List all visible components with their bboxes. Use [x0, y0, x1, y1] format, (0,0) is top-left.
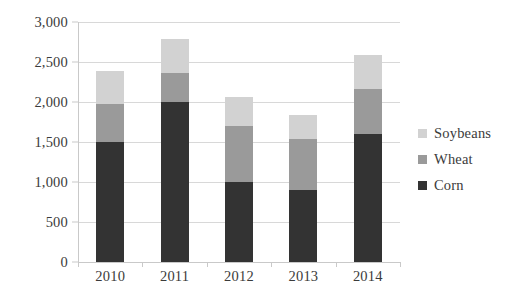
- bar-segment-corn[interactable]: [96, 142, 124, 262]
- x-tick-mark: [400, 262, 401, 267]
- x-tick-label: 2011: [160, 268, 189, 285]
- legend-swatch-icon: [418, 129, 427, 138]
- bar-stack[interactable]: [96, 22, 124, 262]
- bar-segment-soybeans[interactable]: [225, 97, 253, 126]
- x-tick-label: 2012: [224, 268, 254, 285]
- y-tick-label: 1,000: [0, 174, 68, 191]
- y-tick-label: 0: [0, 254, 68, 271]
- bar-segment-wheat[interactable]: [161, 73, 189, 102]
- x-tick-mark: [336, 262, 337, 267]
- y-tick-label: 1,500: [0, 134, 68, 151]
- plot-area: [78, 22, 400, 262]
- chart-legend: SoybeansWheatCorn: [418, 120, 491, 198]
- bar-stack[interactable]: [354, 22, 382, 262]
- legend-label: Corn: [434, 177, 464, 194]
- stacked-bar-chart: 05001,0001,5002,0002,5003,000 2010201120…: [0, 0, 516, 305]
- bar-segment-soybeans[interactable]: [96, 71, 124, 104]
- bar-segment-corn[interactable]: [354, 134, 382, 262]
- bar-segment-wheat[interactable]: [96, 104, 124, 142]
- bar-segment-soybeans[interactable]: [354, 55, 382, 89]
- x-tick-label: 2013: [288, 268, 318, 285]
- x-tick-mark: [207, 262, 208, 267]
- bar-segment-corn[interactable]: [225, 182, 253, 262]
- bar-segment-soybeans[interactable]: [161, 39, 189, 73]
- bar-segment-wheat[interactable]: [225, 126, 253, 182]
- x-tick-label: 2014: [353, 268, 383, 285]
- x-tick-mark: [271, 262, 272, 267]
- bar-segment-wheat[interactable]: [289, 139, 317, 190]
- bar-stack[interactable]: [225, 22, 253, 262]
- legend-item-wheat[interactable]: Wheat: [418, 146, 491, 172]
- bar-segment-wheat[interactable]: [354, 89, 382, 134]
- bar-stack[interactable]: [161, 22, 189, 262]
- bar-segment-soybeans[interactable]: [289, 115, 317, 139]
- y-tick-label: 2,000: [0, 94, 68, 111]
- x-axis-line: [78, 262, 401, 263]
- bar-stack[interactable]: [289, 22, 317, 262]
- x-tick-mark: [142, 262, 143, 267]
- legend-item-corn[interactable]: Corn: [418, 172, 491, 198]
- y-tick-label: 2,500: [0, 54, 68, 71]
- y-tick-label: 500: [0, 214, 68, 231]
- bar-segment-corn[interactable]: [161, 102, 189, 262]
- legend-swatch-icon: [418, 181, 427, 190]
- x-tick-mark: [78, 262, 79, 267]
- legend-swatch-icon: [418, 155, 427, 164]
- bar-segment-corn[interactable]: [289, 190, 317, 262]
- x-tick-label: 2010: [95, 268, 125, 285]
- legend-label: Soybeans: [434, 125, 491, 142]
- legend-item-soybeans[interactable]: Soybeans: [418, 120, 491, 146]
- legend-label: Wheat: [434, 151, 473, 168]
- y-tick-label: 3,000: [0, 14, 68, 31]
